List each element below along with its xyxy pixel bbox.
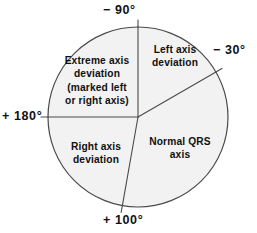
sector-label-normal-qrs-axis: Normal QRS axis bbox=[139, 135, 221, 162]
sector-label-extreme-axis-deviation: Extreme axis deviation (marked left or r… bbox=[47, 54, 147, 108]
axis-label-minus-90: − 90° bbox=[103, 4, 136, 17]
axis-label-minus-30: − 30° bbox=[213, 44, 246, 57]
axis-label-plus-100: + 100° bbox=[103, 214, 143, 227]
tick-stub--30 bbox=[216, 69, 222, 73]
qrs-axis-diagram: − 90° − 30° + 180° + 100° Extreme axis d… bbox=[0, 0, 257, 233]
tick-stub-100 bbox=[121, 206, 122, 213]
axis-label-plus-180: + 180° bbox=[2, 110, 42, 123]
sector-label-right-axis-deviation: Right axis deviation bbox=[56, 140, 136, 167]
sector-label-left-axis-deviation: Left axis deviation bbox=[138, 43, 212, 70]
